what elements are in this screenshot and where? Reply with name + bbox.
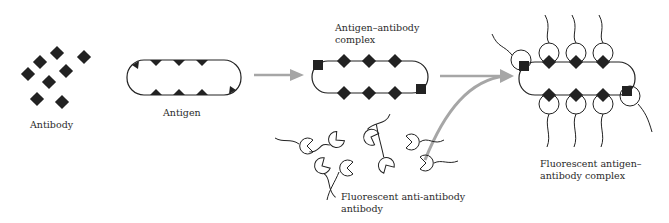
antibody-cluster-icon: [21, 46, 91, 109]
anti-antibody-label-line2: antibody: [341, 203, 383, 214]
complex-label-line1: Antigen–antibody: [335, 22, 419, 33]
fluorescent-complex-label-line2: antibody complex: [540, 170, 625, 181]
antigen-antibody-complex-icon: [312, 54, 428, 100]
anti-antibody-label-line1: Fluorescent anti-antibody: [341, 191, 465, 202]
immunofluorescence-diagram: Antibody Antigen Antigen–antibody comple…: [0, 0, 669, 223]
antibody-label: Antibody: [30, 119, 73, 130]
fluorescent-complex-label-line1: Fluorescent antigen–: [540, 158, 642, 169]
arrow-right-icon: [254, 69, 304, 81]
fluorescent-antigen-antibody-complex-icon: [492, 15, 652, 147]
antigen-label: Antigen: [163, 107, 201, 118]
complex-label-line2: complex: [335, 34, 375, 45]
fluorescent-anti-antibody-cluster-icon: [275, 108, 458, 200]
antigen-icon: [127, 60, 241, 95]
curved-arrow-icon: [425, 69, 514, 160]
